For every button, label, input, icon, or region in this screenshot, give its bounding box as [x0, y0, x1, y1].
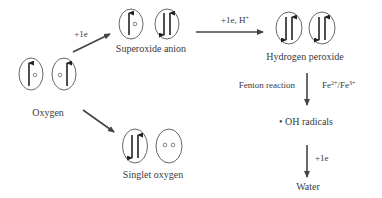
water-label: Water: [296, 181, 320, 192]
empty-electron-icon: [58, 73, 62, 77]
hydrogen-peroxide-node: Hydrogen peroxide: [266, 12, 344, 62]
hydrogen-peroxide-label: Hydrogen peroxide: [266, 51, 344, 62]
edge-peroxide-to-oh: Fenton reaction Fe2+/Fe3+: [239, 73, 356, 105]
edge-superoxide-to-peroxide: +1e, H+: [196, 15, 263, 32]
oxygen-node: Oxygen: [19, 58, 76, 118]
oxygen-label: Oxygen: [32, 107, 64, 118]
oxygen-orbital-2: [52, 58, 76, 90]
ros-diagram: Oxygen +1e Superoxide anion +1e, H+: [0, 0, 382, 198]
fenton-reaction-label: Fenton reaction: [239, 80, 296, 90]
edge-oxygen-to-singlet: [83, 110, 114, 132]
superoxide-label: Superoxide anion: [116, 43, 186, 54]
arrow-icon: [83, 110, 114, 132]
singlet-oxygen-node: Singlet oxygen: [123, 129, 184, 180]
superoxide-orbital-1: [119, 9, 143, 39]
oh-radicals-label: • OH radicals: [279, 116, 333, 127]
superoxide-node: Superoxide anion: [116, 9, 186, 54]
iron-ions-label: Fe2+/Fe3+: [322, 80, 356, 90]
peroxide-orbital-1: [276, 12, 302, 44]
superoxide-orbital-2: [155, 9, 179, 39]
edge-oxygen-to-superoxide: +1e: [73, 29, 110, 52]
oxygen-orbital-1: [19, 58, 43, 90]
edge-oh-to-water: +1e: [307, 145, 329, 177]
edge-label: +1e: [74, 29, 88, 39]
empty-electron-icon: [133, 22, 137, 26]
edge-label: +1e: [315, 153, 329, 163]
singlet-oxygen-label: Singlet oxygen: [123, 169, 183, 180]
edge-label: +1e, H+: [221, 15, 250, 25]
singlet-orbital-1: [123, 129, 148, 163]
empty-electron-icon: [33, 73, 37, 77]
singlet-orbital-2: [156, 129, 182, 163]
empty-electron-icon: [171, 143, 175, 147]
empty-electron-icon: [163, 143, 167, 147]
peroxide-orbital-2: [309, 12, 335, 44]
